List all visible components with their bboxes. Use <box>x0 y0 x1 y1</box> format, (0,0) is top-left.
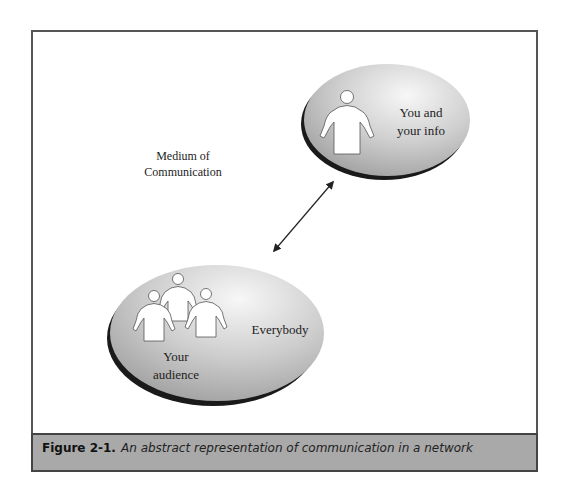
audience-side-label: Everybody <box>240 320 320 339</box>
audience-group-label: Your audience <box>140 348 212 384</box>
audience-group-label-line1: Your <box>140 348 212 366</box>
diagram-canvas <box>0 0 570 488</box>
medium-label-line2: Communication <box>128 164 238 180</box>
figure-caption-band: Figure 2-1. An abstract representation o… <box>31 433 538 472</box>
bidirectional-arrow <box>274 182 333 251</box>
medium-label: Medium of Communication <box>128 148 238 180</box>
audience-group-label-line2: audience <box>140 366 212 384</box>
figure-caption: An abstract representation of communicat… <box>121 441 473 455</box>
self-node-label: You and your info <box>382 104 460 140</box>
figure-number: Figure 2-1. <box>42 441 116 455</box>
self-node-label-line1: You and <box>382 104 460 122</box>
medium-label-line1: Medium of <box>128 148 238 164</box>
self-node-label-line2: your info <box>382 122 460 140</box>
